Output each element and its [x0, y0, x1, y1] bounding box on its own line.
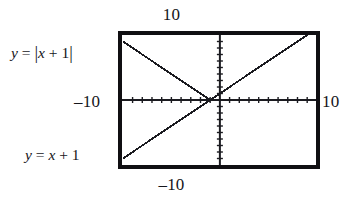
equation-label-absolute-value: y = |x + 1| — [11, 43, 73, 61]
eq-lin-constant: 1 — [72, 146, 80, 163]
eq-lin-equals: = — [36, 146, 45, 163]
series-curve-1 — [123, 35, 307, 100]
window-label-xmin: –10 — [74, 93, 100, 110]
eq-abs-operator: + — [49, 44, 58, 61]
plot-canvas — [122, 35, 316, 165]
eq-abs-equals: = — [22, 44, 31, 61]
eq-lin-lhs: y — [25, 146, 32, 163]
window-label-ymax: 10 — [0, 6, 343, 23]
eq-abs-var: x — [38, 44, 45, 61]
eq-abs-lhs: y — [11, 44, 18, 61]
curves-group — [123, 35, 307, 159]
graphing-calculator-figure: 10 –10 –10 10 y = |x + 1| y = x + 1 — [0, 0, 343, 202]
series-curve-2 — [123, 35, 307, 159]
equation-label-linear: y = x + 1 — [25, 147, 80, 163]
calculator-screen-frame — [118, 31, 320, 169]
eq-abs-open-bar: | — [34, 43, 38, 63]
eq-abs-close-bar: | — [69, 43, 73, 63]
eq-lin-var: x — [48, 146, 55, 163]
window-label-xmax: 10 — [322, 93, 339, 110]
eq-abs-constant: 1 — [61, 44, 69, 61]
eq-lin-operator: + — [59, 146, 68, 163]
window-label-ymin: –10 — [0, 176, 343, 193]
axes-group — [122, 35, 316, 165]
